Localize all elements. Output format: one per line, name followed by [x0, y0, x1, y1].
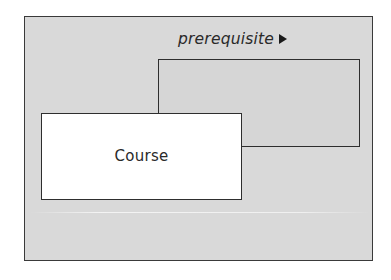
association-name: prerequisite — [178, 30, 274, 48]
triangle-right-icon — [279, 34, 287, 44]
scan-artifact-line — [30, 212, 370, 213]
course-class-box: Course — [41, 113, 242, 200]
course-class-label: Course — [114, 147, 168, 165]
association-label: prerequisite — [178, 30, 287, 48]
